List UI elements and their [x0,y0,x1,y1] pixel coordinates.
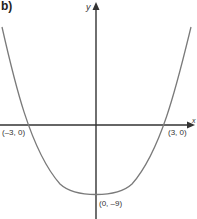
y-axis-arrow-icon [93,2,100,10]
y-axis-label: y [86,2,91,12]
right-root-label: (3, 0) [168,128,187,137]
vertex-label: (0, –9) [99,199,122,208]
x-axis-label: x [192,117,196,124]
left-root-label: (–3, 0) [2,128,25,137]
parabola-graph [0,0,197,219]
